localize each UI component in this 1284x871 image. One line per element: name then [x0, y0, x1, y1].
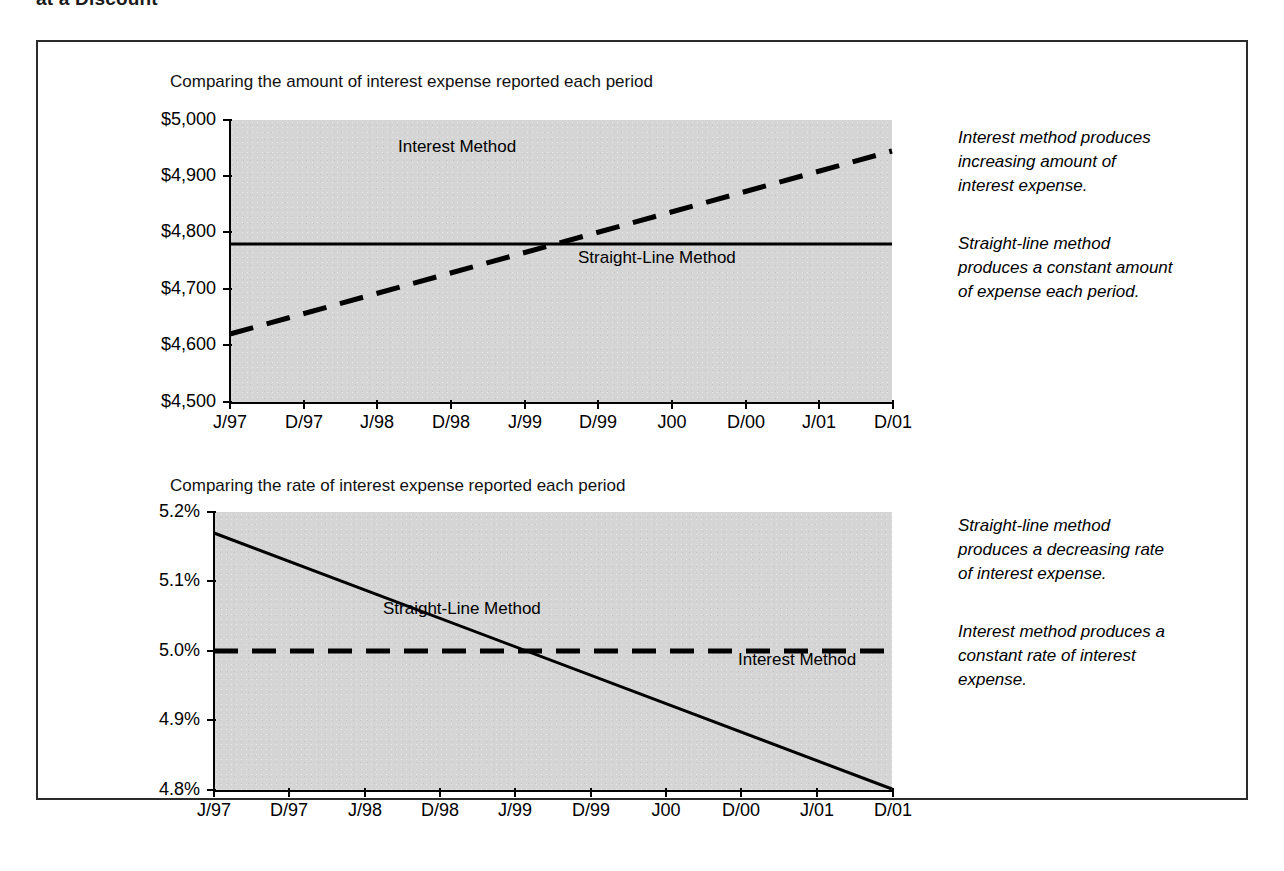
x-label-rate-0: J/97	[174, 800, 254, 821]
chart-interest-expense-amount: Comparing the amount of interest expense…	[38, 42, 1246, 422]
annotation-rate-interest: Interest method produces a constant rate…	[958, 620, 1173, 692]
x-label-rate-4: J/99	[475, 800, 555, 821]
x-label-rate-7: D/00	[701, 800, 781, 821]
figure-frame: Comparing the amount of interest expense…	[36, 40, 1248, 800]
series-label-straight-line-rate: Straight-Line Method	[383, 599, 541, 619]
series-label-straight-line-amount: Straight-Line Method	[578, 248, 736, 268]
x-label-rate-1: D/97	[249, 800, 329, 821]
x-label-rate-5: D/99	[551, 800, 631, 821]
x-label-rate-9: D/01	[853, 800, 933, 821]
annotation-rate-straight-line: Straight-line method produces a decreasi…	[958, 514, 1173, 586]
x-label-rate-3: D/98	[400, 800, 480, 821]
x-label-rate-8: J/01	[777, 800, 857, 821]
annotation-amount-interest: Interest method produces increasing amou…	[958, 126, 1173, 198]
x-label-rate-6: J00	[626, 800, 706, 821]
chart-interest-expense-rate: Comparing the rate of interest expense r…	[38, 442, 1246, 802]
series-label-interest-amount: Interest Method	[398, 137, 516, 157]
page-heading-partial: at a Discount	[36, 0, 158, 8]
annotation-amount-straight-line: Straight-line method produces a constant…	[958, 232, 1173, 304]
x-label-rate-2: J/98	[325, 800, 405, 821]
series-label-interest-rate: Interest Method	[738, 650, 856, 670]
